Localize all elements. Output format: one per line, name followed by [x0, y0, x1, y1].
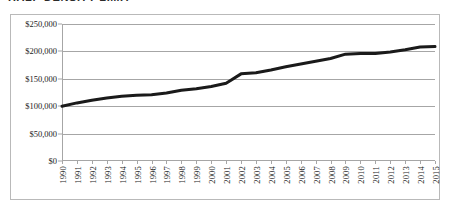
y-tick-label: $0	[49, 156, 58, 166]
y-tick-label: $150,000	[25, 74, 57, 84]
x-tick-label: 2005	[282, 166, 292, 184]
chart-screenshot: HALF-DENSITY LIMIT $0$50,000$100,000$150…	[0, 0, 451, 210]
x-tick-label: 2007	[312, 166, 322, 184]
x-tick-mark	[405, 161, 406, 164]
x-tick-label: 2003	[252, 166, 262, 184]
x-tick-label: 1992	[88, 166, 98, 184]
series-line	[62, 46, 435, 106]
x-tick-label: 2015	[431, 166, 441, 184]
x-tick-mark	[107, 161, 108, 164]
x-tick-mark	[345, 161, 346, 164]
x-tick-label: 2009	[341, 166, 351, 184]
x-tick-mark	[226, 161, 227, 164]
x-tick-mark	[137, 161, 138, 164]
x-tick-label: 2004	[267, 166, 277, 184]
x-tick-mark	[166, 161, 167, 164]
x-tick-mark	[62, 161, 63, 164]
x-tick-label: 2006	[297, 166, 307, 184]
x-tick-label: 2012	[386, 166, 396, 184]
x-tick-mark	[211, 161, 212, 164]
x-tick-mark	[375, 161, 376, 164]
x-tick-mark	[77, 161, 78, 164]
x-tick-label: 2001	[222, 166, 232, 184]
y-tick-label: $200,000	[25, 46, 57, 56]
x-tick-label: 2011	[371, 166, 381, 184]
x-tick-mark	[241, 161, 242, 164]
x-tick-mark	[390, 161, 391, 164]
x-tick-label: 1993	[103, 166, 113, 184]
x-tick-mark	[152, 161, 153, 164]
x-tick-mark	[271, 161, 272, 164]
x-tick-mark	[181, 161, 182, 164]
chart-frame: $0$50,000$100,000$150,000$200,000$250,00…	[10, 14, 440, 200]
y-tick-label: $50,000	[29, 129, 57, 139]
x-tick-label: 2002	[237, 166, 247, 184]
x-tick-mark	[286, 161, 287, 164]
x-tick-mark	[196, 161, 197, 164]
x-tick-mark	[122, 161, 123, 164]
x-tick-mark	[301, 161, 302, 164]
x-tick-label: 1996	[148, 166, 158, 184]
page-title: HALF-DENSITY LIMIT	[8, 0, 268, 5]
x-tick-mark	[256, 161, 257, 164]
x-tick-mark	[420, 161, 421, 164]
x-tick-label: 1998	[177, 166, 187, 184]
x-tick-mark	[331, 161, 332, 164]
x-tick-label: 1999	[192, 166, 202, 184]
y-tick-label: $100,000	[25, 101, 57, 111]
x-tick-label: 2008	[327, 166, 337, 184]
x-tick-label: 1995	[133, 166, 143, 184]
x-tick-label: 1994	[118, 166, 128, 184]
x-tick-label: 1991	[73, 166, 83, 184]
x-tick-mark	[92, 161, 93, 164]
series-line-layer	[62, 24, 435, 161]
x-tick-label: 2000	[207, 166, 217, 184]
x-tick-mark	[316, 161, 317, 164]
x-tick-label: 1997	[162, 166, 172, 184]
x-tick-label: 2010	[356, 166, 366, 184]
plot-area: $0$50,000$100,000$150,000$200,000$250,00…	[62, 24, 435, 161]
y-tick-label: $250,000	[25, 19, 57, 29]
x-tick-mark	[360, 161, 361, 164]
x-tick-label: 2013	[401, 166, 411, 184]
x-tick-label: 2014	[416, 166, 426, 184]
x-tick-label: 1990	[58, 166, 68, 184]
x-tick-mark	[435, 161, 436, 164]
